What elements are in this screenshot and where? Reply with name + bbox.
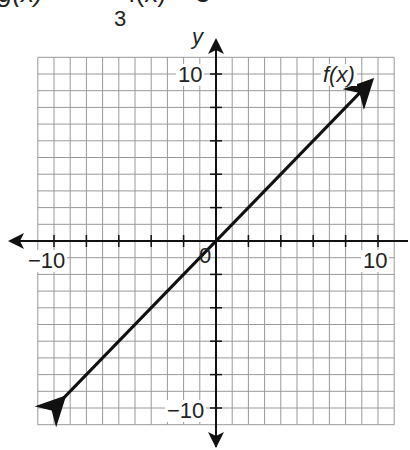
x-max-label: 10 bbox=[361, 250, 389, 272]
y-max-label: 10 bbox=[176, 64, 204, 86]
y-axis-label: y bbox=[192, 26, 203, 48]
x-min-label: −10 bbox=[26, 250, 67, 272]
origin-label: 0 bbox=[199, 245, 211, 267]
function-label: f(x) bbox=[321, 64, 357, 86]
y-min-label: −10 bbox=[165, 400, 206, 422]
